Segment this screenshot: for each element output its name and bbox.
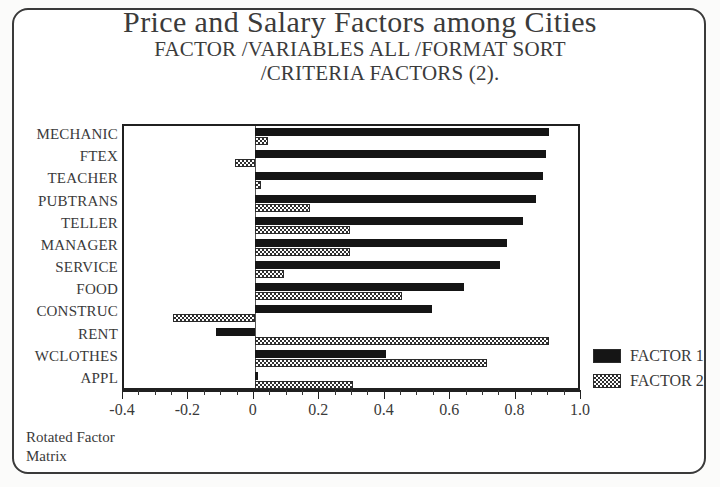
bar-factor-1 bbox=[255, 305, 432, 313]
x-tick-minor bbox=[482, 390, 483, 395]
category-axis-labels: MECHANICFTEXTEACHERPUBTRANSTELLERMANAGER… bbox=[10, 124, 118, 390]
bar-factor-1 bbox=[255, 261, 500, 269]
x-tick-label: -0.4 bbox=[109, 401, 134, 419]
bar-group bbox=[124, 259, 578, 281]
x-tick-minor bbox=[466, 390, 467, 395]
bar-factor-2 bbox=[255, 181, 262, 189]
legend-swatch-factor-2-icon bbox=[593, 374, 621, 388]
x-tick-major bbox=[253, 390, 254, 399]
x-tick-minor bbox=[302, 390, 303, 395]
bar-group bbox=[124, 326, 578, 348]
x-tick-major bbox=[122, 390, 123, 399]
x-tick-minor bbox=[171, 390, 172, 395]
category-label: APPL bbox=[10, 370, 118, 387]
plot-wrapper bbox=[122, 124, 580, 390]
bar-factor-1 bbox=[255, 283, 464, 291]
bar-factor-1 bbox=[255, 150, 546, 158]
bar-factor-2 bbox=[235, 159, 255, 167]
title-block: Price and Salary Factors among Cities FA… bbox=[0, 6, 720, 85]
x-tick-label: 0.6 bbox=[439, 401, 459, 419]
x-tick-minor bbox=[204, 390, 205, 395]
bar-group bbox=[124, 126, 578, 148]
command-subtitle-line-1: FACTOR /VARIABLES ALL /FORMAT SORT bbox=[0, 38, 720, 62]
legend-item-factor-1: FACTOR 1 bbox=[593, 345, 704, 367]
legend-label-factor-1: FACTOR 1 bbox=[630, 347, 704, 365]
x-tick-minor bbox=[547, 390, 548, 395]
bar-factor-2 bbox=[255, 248, 350, 256]
chart-caption: Rotated Factor Matrix bbox=[26, 428, 115, 466]
x-tick-label: 0 bbox=[249, 401, 257, 419]
x-tick-major bbox=[384, 390, 385, 399]
x-tick-minor bbox=[351, 390, 352, 395]
x-tick-label: 0.2 bbox=[308, 401, 328, 419]
x-tick-minor bbox=[220, 390, 221, 395]
bar-group bbox=[124, 170, 578, 192]
bar-factor-1 bbox=[255, 350, 386, 358]
bar-factor-2 bbox=[255, 337, 549, 345]
category-label: TELLER bbox=[10, 215, 118, 232]
x-tick-minor bbox=[433, 390, 434, 395]
bar-group bbox=[124, 193, 578, 215]
bar-factor-2 bbox=[255, 204, 311, 212]
x-tick-minor bbox=[335, 390, 336, 395]
bar-factor-1 bbox=[255, 217, 523, 225]
bar-factor-1 bbox=[216, 328, 255, 336]
category-label: PUBTRANS bbox=[10, 193, 118, 210]
bar-group bbox=[124, 215, 578, 237]
x-tick-label: 1.0 bbox=[570, 401, 590, 419]
bar-factor-1 bbox=[255, 195, 536, 203]
caption-line-1: Rotated Factor bbox=[26, 428, 115, 447]
bar-factor-1 bbox=[255, 128, 549, 136]
category-label: RENT bbox=[10, 326, 118, 343]
x-tick-minor bbox=[138, 390, 139, 395]
category-label: WCLOTHES bbox=[10, 348, 118, 365]
legend-swatch-factor-1-icon bbox=[593, 349, 621, 363]
plot-area bbox=[122, 124, 580, 390]
bar-factor-2 bbox=[255, 381, 353, 389]
x-tick-minor bbox=[155, 390, 156, 395]
bar-factor-1 bbox=[255, 239, 507, 247]
bar-group bbox=[124, 237, 578, 259]
x-tick-major bbox=[580, 390, 581, 399]
x-tick-minor bbox=[367, 390, 368, 395]
x-tick-major bbox=[318, 390, 319, 399]
x-tick-minor bbox=[531, 390, 532, 395]
bar-factor-1 bbox=[255, 372, 258, 380]
category-label: SERVICE bbox=[10, 259, 118, 276]
x-tick-label: 0.8 bbox=[505, 401, 525, 419]
bar-group bbox=[124, 281, 578, 303]
category-label: CONSTRUC bbox=[10, 303, 118, 320]
category-label: MANAGER bbox=[10, 237, 118, 254]
x-tick-major bbox=[515, 390, 516, 399]
bar-factor-2 bbox=[255, 137, 268, 145]
bar-group bbox=[124, 370, 578, 392]
category-label: MECHANIC bbox=[10, 126, 118, 143]
x-tick-minor bbox=[498, 390, 499, 395]
bar-factor-2 bbox=[255, 226, 350, 234]
chart-title: Price and Salary Factors among Cities bbox=[0, 6, 720, 38]
bar-factor-2 bbox=[255, 359, 487, 367]
category-label: FOOD bbox=[10, 281, 118, 298]
x-tick-minor bbox=[400, 390, 401, 395]
command-subtitle-line-2: /CRITERIA FACTORS (2). bbox=[0, 62, 720, 86]
x-axis: -0.4-0.200.20.40.60.81.0 bbox=[122, 390, 580, 430]
x-tick-minor bbox=[286, 390, 287, 395]
bar-factor-2 bbox=[255, 292, 402, 300]
x-tick-major bbox=[449, 390, 450, 399]
bar-group bbox=[124, 148, 578, 170]
bar-factor-2 bbox=[255, 270, 284, 278]
x-tick-minor bbox=[564, 390, 565, 395]
caption-line-2: Matrix bbox=[26, 447, 115, 466]
x-tick-minor bbox=[269, 390, 270, 395]
category-label: FTEX bbox=[10, 148, 118, 165]
chart-page: Price and Salary Factors among Cities FA… bbox=[0, 0, 720, 487]
bar-factor-1 bbox=[255, 172, 543, 180]
legend: FACTOR 1 FACTOR 2 bbox=[593, 345, 704, 395]
bar-group bbox=[124, 303, 578, 325]
bar-group bbox=[124, 348, 578, 370]
x-tick-major bbox=[187, 390, 188, 399]
category-label: TEACHER bbox=[10, 170, 118, 187]
legend-label-factor-2: FACTOR 2 bbox=[630, 372, 704, 390]
bar-factor-2 bbox=[173, 314, 255, 322]
x-tick-minor bbox=[237, 390, 238, 395]
